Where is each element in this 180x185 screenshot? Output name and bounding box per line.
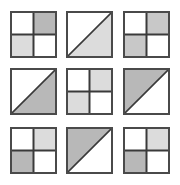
tile-quad-r0c2: [123, 11, 170, 58]
tile-quad-r2c0: [10, 127, 57, 174]
tile-diagonal-r1c0: [10, 68, 57, 115]
tile-quad-r0c0: [10, 11, 57, 58]
tile-quad-r2c2: [123, 127, 170, 174]
tile-diagonal-r1c2: [123, 68, 170, 115]
tile-diagonal-r2c1: [66, 127, 113, 174]
tile-quad-r1c1: [66, 68, 113, 115]
tile-diagonal-r0c1: [66, 11, 113, 58]
